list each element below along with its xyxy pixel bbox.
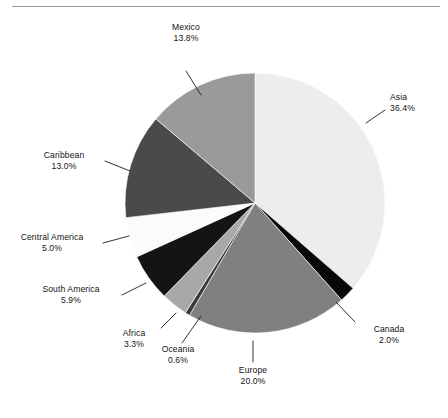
pie-label-asia-name: Asia — [390, 92, 446, 103]
leader-line-asia — [366, 110, 385, 123]
pie-label-mexico-name: Mexico — [148, 22, 224, 33]
leader-line-caribbean — [105, 161, 130, 171]
pie-label-asia-value: 36.4% — [390, 103, 446, 114]
pie-label-oceania: Oceania 0.6% — [150, 344, 206, 366]
leader-line-canada — [336, 302, 355, 322]
pie-label-europe-name: Europe — [224, 365, 282, 376]
pie-label-canada: Canada 2.0% — [360, 324, 418, 346]
pie-label-europe-value: 20.0% — [224, 376, 282, 387]
leader-line-oceania — [182, 316, 201, 343]
leader-line-africa — [161, 313, 176, 328]
pie-label-caribbean-value: 13.0% — [26, 161, 102, 172]
leader-line-south-america — [122, 283, 146, 295]
pie-label-oceania-name: Oceania — [150, 344, 206, 355]
pie-label-canada-value: 2.0% — [360, 335, 418, 346]
pie-slices-svg — [0, 0, 448, 418]
figure-root: Mexico 13.8% Asia 36.4% Caribbean 13.0% … — [0, 0, 448, 418]
pie-label-africa-name: Africa — [110, 328, 158, 339]
pie-label-mexico: Mexico 13.8% — [148, 22, 224, 44]
pie-label-asia: Asia 36.4% — [390, 92, 446, 114]
pie-label-mexico-value: 13.8% — [148, 33, 224, 44]
pie-label-central-america: Central America 5.0% — [4, 232, 100, 254]
pie-label-caribbean-name: Caribbean — [26, 150, 102, 161]
pie-label-central-america-name: Central America — [4, 232, 100, 243]
pie-label-south-america-name: South America — [23, 284, 119, 295]
pie-label-europe: Europe 20.0% — [224, 365, 282, 387]
pie-label-oceania-value: 0.6% — [150, 355, 206, 366]
pie-label-south-america: South America 5.9% — [23, 284, 119, 306]
pie-label-central-america-value: 5.0% — [4, 243, 100, 254]
figure-caption-strip — [0, 404, 448, 418]
pie-slice-group — [125, 73, 385, 333]
pie-label-canada-name: Canada — [360, 324, 418, 335]
leader-line-central-america — [103, 236, 129, 243]
pie-label-south-america-value: 5.9% — [23, 295, 119, 306]
pie-chart: Mexico 13.8% Asia 36.4% Caribbean 13.0% … — [0, 0, 448, 418]
pie-label-caribbean: Caribbean 13.0% — [26, 150, 102, 172]
